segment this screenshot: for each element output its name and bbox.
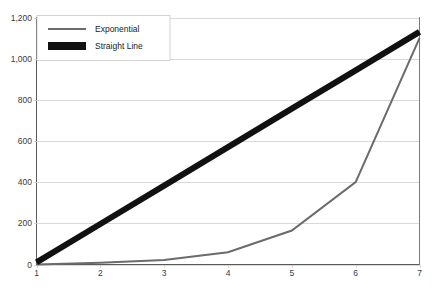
y-tick-label: 1,000: [11, 54, 33, 64]
y-tick-label: 800: [18, 95, 32, 105]
y-tick-label: 0: [27, 260, 32, 270]
series-lines: [37, 32, 420, 265]
legend-background: [37, 16, 170, 61]
chart-container: 02004006008001,0001,200 1234567 Exponent…: [0, 0, 435, 291]
chart-legend[interactable]: ExponentialStraight Line: [37, 16, 170, 61]
legend-label-exponential[interactable]: Exponential: [95, 24, 140, 34]
legend-swatch-straight-line: [48, 42, 86, 50]
x-tick-label: 4: [226, 268, 231, 278]
series-line-straight-line: [37, 32, 420, 263]
line-chart: 02004006008001,0001,200 1234567 Exponent…: [0, 0, 435, 291]
x-tick-label: 5: [289, 268, 294, 278]
x-tick-label: 6: [353, 268, 358, 278]
x-tick-label: 1: [34, 268, 39, 278]
x-tick-label: 7: [417, 268, 422, 278]
x-tick-label: 3: [162, 268, 167, 278]
x-axis-ticks: 1234567: [34, 265, 422, 278]
y-tick-label: 1,200: [11, 13, 33, 23]
y-tick-label: 200: [18, 218, 32, 228]
y-tick-label: 600: [18, 136, 32, 146]
legend-label-straight-line[interactable]: Straight Line: [95, 41, 143, 51]
x-tick-label: 2: [98, 268, 103, 278]
y-axis-ticks: 02004006008001,0001,200: [11, 13, 37, 270]
y-tick-label: 400: [18, 177, 32, 187]
